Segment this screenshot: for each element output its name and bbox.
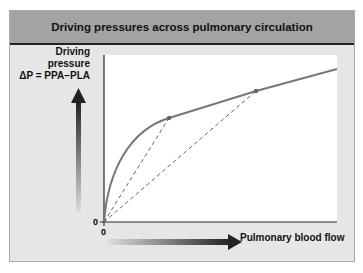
x-axis-label: Pulmonary blood flow (240, 232, 344, 243)
y-arrow-shaft (76, 102, 81, 212)
x-origin-label: 0 (101, 227, 106, 237)
point-2 (254, 89, 258, 93)
y-arrow-head-icon (71, 88, 86, 103)
point-1 (167, 116, 171, 120)
plot-area (104, 55, 337, 222)
x-arrow-shaft (108, 239, 230, 245)
y-origin-label: 0 (93, 217, 98, 227)
